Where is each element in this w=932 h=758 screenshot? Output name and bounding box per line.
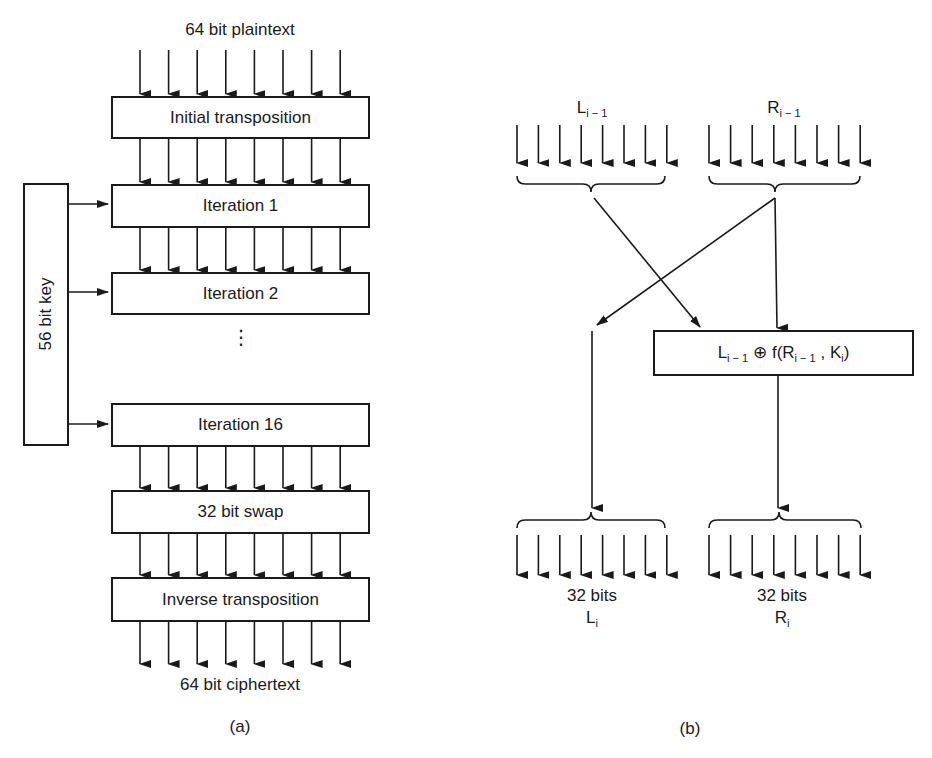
stage-label: Inverse transposition: [162, 590, 319, 610]
right-input-base: R: [767, 98, 779, 117]
stage-label: Initial transposition: [170, 108, 311, 128]
stage-label: 32 bit swap: [198, 502, 284, 522]
feistel-function-box: Li − 1 ⊕ f(Ri − 1 , Ki): [653, 330, 914, 376]
iteration-16-box: Iteration 16: [111, 403, 370, 447]
key-label: 56 bit key: [36, 278, 56, 351]
stage-label: Iteration 16: [198, 415, 283, 435]
stage-label: Iteration 1: [203, 196, 279, 216]
iteration-2-box: Iteration 2: [111, 272, 370, 315]
caption-a: (a): [230, 717, 251, 737]
right-input-sub: i − 1: [780, 107, 801, 119]
ellipsis: ⋮: [231, 330, 251, 344]
32-bit-swap-box: 32 bit swap: [111, 490, 370, 534]
xor-icon: ⊕: [753, 343, 767, 362]
left-output-bits: 32 bits: [567, 586, 617, 606]
initial-transposition-box: Initial transposition: [111, 96, 370, 139]
right-input-label: Ri − 1: [767, 98, 800, 119]
iteration-1-box: Iteration 1: [111, 184, 370, 228]
inverse-transposition-box: Inverse transposition: [111, 577, 370, 622]
plaintext-label: 64 bit plaintext: [185, 20, 295, 40]
function-expression: Li − 1 ⊕ f(Ri − 1 , Ki): [718, 342, 850, 364]
left-output-label: Li: [586, 608, 598, 629]
ciphertext-label: 64 bit ciphertext: [180, 675, 300, 695]
left-input-sub: i − 1: [586, 107, 607, 119]
figure-a-arrow-buses: [140, 50, 340, 664]
caption-b: (b): [680, 719, 701, 739]
stage-label: Iteration 2: [203, 284, 279, 304]
right-output-bits: 32 bits: [757, 586, 807, 606]
right-output-label: Ri: [775, 608, 790, 629]
key-arrows: [68, 204, 108, 424]
left-input-label: Li − 1: [577, 98, 608, 119]
